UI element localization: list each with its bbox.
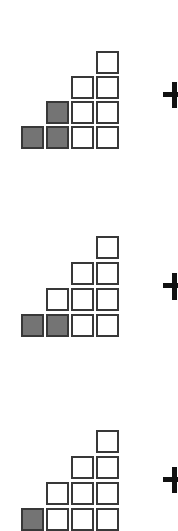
empty-square <box>96 456 119 479</box>
empty-square <box>96 236 119 259</box>
empty-square <box>71 456 94 479</box>
empty-square <box>46 508 69 531</box>
empty-square <box>96 262 119 285</box>
filled-square <box>46 126 69 149</box>
empty-square <box>71 482 94 505</box>
empty-square <box>46 288 69 311</box>
empty-square <box>71 262 94 285</box>
empty-square <box>71 314 94 337</box>
empty-square <box>46 482 69 505</box>
filled-square <box>21 126 44 149</box>
empty-square <box>96 430 119 453</box>
filled-square <box>46 101 69 124</box>
empty-square <box>71 126 94 149</box>
empty-square <box>96 314 119 337</box>
empty-square <box>96 51 119 74</box>
empty-square <box>96 101 119 124</box>
empty-square <box>71 288 94 311</box>
empty-square <box>96 508 119 531</box>
empty-square <box>71 76 94 99</box>
empty-square <box>71 101 94 124</box>
empty-square <box>71 508 94 531</box>
filled-square <box>21 508 44 531</box>
filled-square <box>21 314 44 337</box>
empty-square <box>96 288 119 311</box>
empty-square <box>96 76 119 99</box>
filled-square <box>46 314 69 337</box>
empty-square <box>96 126 119 149</box>
empty-square <box>96 482 119 505</box>
